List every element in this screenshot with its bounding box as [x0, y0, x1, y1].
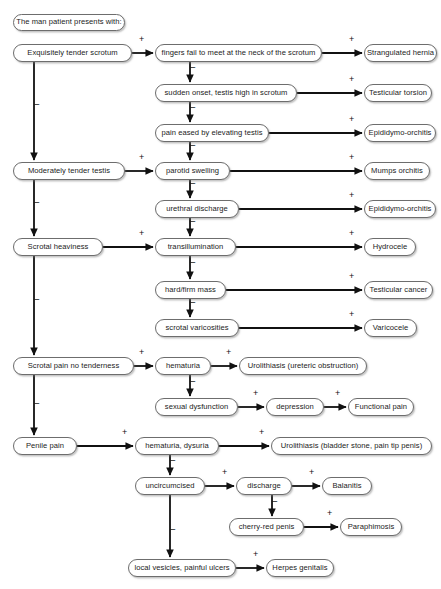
node-m2[interactable]: sudden onset, testis high in scrotum: [155, 84, 297, 102]
edge-sign-m3-to-r3: +: [349, 115, 354, 124]
edge-sign-l5-to-m11: +: [122, 428, 127, 437]
node-r11[interactable]: Functional pain: [348, 398, 414, 416]
node-m6[interactable]: transillumination: [155, 238, 236, 256]
node-r5[interactable]: Epididymo-orchitis: [364, 200, 436, 218]
node-r13[interactable]: Balanitis: [322, 477, 372, 495]
node-m5[interactable]: urethral discharge: [155, 200, 239, 218]
node-m15[interactable]: local vesicles, painful ulcers: [128, 559, 236, 577]
edge-sign-l1-to-m1: +: [139, 35, 144, 44]
node-m9[interactable]: hematuria: [155, 357, 211, 375]
edge-sign-m12-to-m15: −: [170, 525, 176, 535]
edge-sign-l4-to-l5: −: [34, 399, 40, 409]
edge-sign-l2-to-l3: −: [34, 198, 40, 208]
edge-sign-m5-to-r5: +: [349, 191, 354, 200]
node-r2[interactable]: Testicular torsion: [364, 84, 432, 102]
edge-sign-m6-to-r6: +: [349, 229, 354, 238]
node-r1[interactable]: Strangulated hernia: [364, 44, 437, 62]
node-r14[interactable]: Paraphimosis: [340, 518, 402, 536]
node-m11[interactable]: hematuria, dysuria: [135, 437, 219, 455]
node-r9[interactable]: Urolithiasis (ureteric obstruction): [239, 357, 367, 375]
edge-sign-m6-to-m7: −: [190, 258, 196, 268]
edge-sign-m4-to-r4: +: [349, 153, 354, 162]
node-m10[interactable]: sexual dysfunction: [155, 398, 238, 416]
node-r8[interactable]: Varicocele: [364, 319, 417, 337]
edge-sign-m8-to-r8: +: [349, 310, 354, 319]
edge-sign-m1-to-m2: −: [190, 63, 196, 73]
node-m8[interactable]: scrotal varicosities: [155, 319, 239, 337]
edge-sign-m7-to-m8: −: [190, 298, 196, 308]
edge-sign-m7-to-r7: +: [349, 272, 354, 281]
edge-sign-l3-to-l4: −: [34, 295, 40, 305]
node-r7[interactable]: Testicular cancer: [364, 281, 433, 299]
node-l5[interactable]: Penile pain: [13, 437, 77, 455]
edge-sign-m4-to-m5: −: [190, 179, 196, 189]
edge-sign-l4-to-m9: +: [139, 348, 144, 357]
node-l4[interactable]: Scrotal pain no tenderness: [13, 357, 134, 375]
edge-sign-m2-to-r2: +: [349, 75, 354, 84]
edge-sign-m3-to-m4: −: [190, 141, 196, 151]
node-l3[interactable]: Scrotal heaviness: [13, 238, 103, 256]
edge-sign-m12-to-m13: +: [222, 468, 227, 477]
edge-sign-m2-to-m3: −: [190, 103, 196, 113]
node-l1[interactable]: Exquisitely tender scrotum: [13, 44, 132, 62]
flowchart-canvas: The man patient presents with:Exquisitel…: [0, 0, 441, 589]
node-m1[interactable]: fingers fail to meet at the neck of the …: [155, 44, 322, 62]
node-r10[interactable]: depression: [266, 398, 324, 416]
node-m12[interactable]: uncircumcised: [135, 477, 205, 495]
edge-sign-m11-to-r12: +: [259, 428, 264, 437]
edge-sign-m1-to-r1: +: [349, 35, 354, 44]
edge-sign-m15-to-r15: +: [253, 550, 258, 559]
node-r15[interactable]: Herpes genitalis: [266, 559, 334, 577]
edge-sign-m13-to-r13: +: [309, 468, 314, 477]
node-m3[interactable]: pain eased by elevating testis: [155, 124, 269, 142]
node-r4[interactable]: Mumps orchitis: [364, 162, 430, 180]
node-r12[interactable]: Urolithiasis (bladder stone, pain tip pe…: [271, 437, 432, 455]
node-r3[interactable]: Epididymo-orchitis: [364, 124, 436, 142]
edge-sign-m9-to-m10: −: [190, 377, 196, 387]
node-r6[interactable]: Hydrocele: [364, 238, 416, 256]
edge-sign-m9-to-r9: +: [226, 348, 231, 357]
edge-sign-r10-to-r11: +: [335, 389, 340, 398]
edge-sign-l2-to-m4: +: [139, 153, 144, 162]
edge-sign-m14-to-r14: +: [327, 509, 332, 518]
node-l2[interactable]: Moderately tender testis: [13, 162, 125, 180]
edge-sign-m5-to-m6: −: [190, 217, 196, 227]
edge-sign-m10-to-r10: +: [253, 389, 258, 398]
edge-sign-l1-to-l2: −: [34, 100, 40, 110]
edge-sign-m13-to-m14: −: [272, 497, 278, 507]
node-m13[interactable]: discharge: [236, 477, 292, 495]
node-header[interactable]: The man patient presents with:: [13, 14, 125, 31]
edge-sign-m11-to-m12: −: [170, 456, 176, 466]
node-m14[interactable]: cherry-red penis: [229, 518, 304, 536]
edge-sign-l3-to-m6: +: [139, 229, 144, 238]
